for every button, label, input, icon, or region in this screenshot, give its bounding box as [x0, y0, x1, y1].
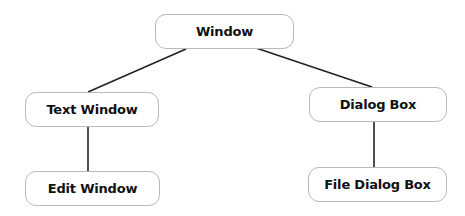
node-label: Text Window [46, 102, 137, 117]
edge-window-to-dialog-box [256, 48, 372, 87]
node-edit-window: Edit Window [25, 171, 160, 206]
class-hierarchy-diagram: Window Text Window Dialog Box Edit Windo… [0, 0, 465, 216]
edge-window-to-text-window [88, 49, 186, 92]
node-label: File Dialog Box [324, 177, 431, 192]
node-label: Window [196, 24, 253, 39]
node-file-dialog-box: File Dialog Box [308, 167, 447, 202]
node-text-window: Text Window [25, 92, 159, 127]
node-label: Edit Window [48, 181, 137, 196]
node-dialog-box: Dialog Box [309, 87, 447, 122]
node-window: Window [155, 14, 294, 49]
node-label: Dialog Box [340, 97, 416, 112]
